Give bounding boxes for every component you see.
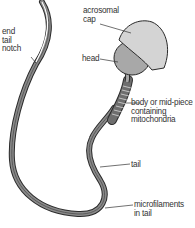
label-head: head (82, 55, 99, 64)
label-acrosomal-cap: acrosomal cap (83, 7, 119, 24)
label-microfilaments: microfilaments in tail (134, 201, 184, 218)
tail-shape (12, 2, 114, 214)
label-end-tail-notch: end tail notch (2, 28, 21, 54)
midpiece-shape (112, 80, 131, 120)
label-tail: tail (131, 161, 141, 170)
label-body: body or mid-piece containing mitochondri… (131, 99, 193, 125)
